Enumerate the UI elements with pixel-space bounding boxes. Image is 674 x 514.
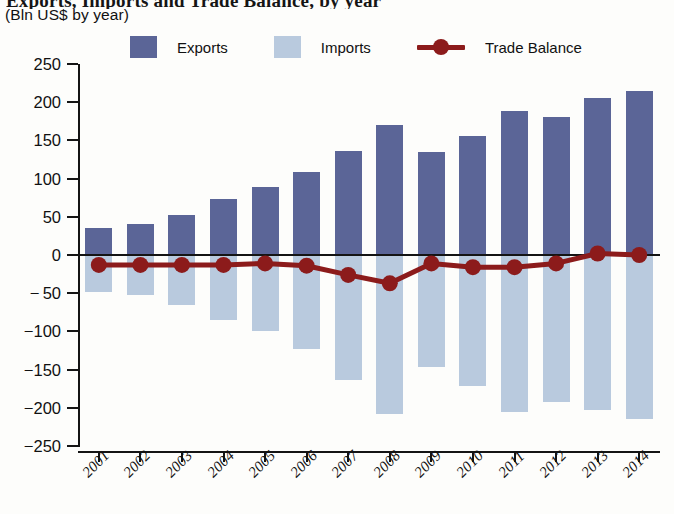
bar-import[interactable] <box>127 255 154 295</box>
bar-import[interactable] <box>376 255 403 414</box>
y-axis-tick <box>67 254 78 256</box>
y-axis-tick <box>67 216 78 218</box>
y-axis-tick-label: 200 <box>33 93 61 112</box>
bar-export[interactable] <box>293 172 320 255</box>
bar-import[interactable] <box>543 255 570 402</box>
chart-legend: Exports Imports Trade Balance <box>130 36 582 58</box>
bar-import[interactable] <box>584 255 611 410</box>
y-axis-labels: 250200150100500− 50−100−150−200−250 <box>0 64 67 447</box>
y-axis-tick <box>67 101 78 103</box>
legend-label-exports: Exports <box>177 39 228 56</box>
bar-export[interactable] <box>543 117 570 255</box>
y-axis-tick-label: 50 <box>43 207 61 226</box>
y-axis-tick-label: 0 <box>52 246 61 265</box>
x-axis-spine <box>78 451 660 453</box>
bar-export[interactable] <box>418 152 445 255</box>
y-axis-tick <box>67 407 78 409</box>
bar-import[interactable] <box>626 255 653 419</box>
legend-swatch-exports <box>130 36 157 58</box>
y-axis-tick-label: − 50 <box>30 284 61 303</box>
bar-export[interactable] <box>459 136 486 255</box>
bar-import[interactable] <box>459 255 486 386</box>
bar-export[interactable] <box>626 91 653 255</box>
bar-export[interactable] <box>168 215 195 255</box>
bar-export[interactable] <box>501 111 528 255</box>
bar-export[interactable] <box>127 224 154 255</box>
legend-item-exports[interactable]: Exports <box>130 36 228 58</box>
bar-import[interactable] <box>210 255 237 320</box>
y-axis-tick-label: −150 <box>24 360 61 379</box>
y-axis-tick <box>67 369 78 371</box>
bar-import[interactable] <box>168 255 195 305</box>
bar-import[interactable] <box>335 255 362 380</box>
y-axis-tick-label: −100 <box>24 322 61 341</box>
legend-swatch-imports <box>274 36 301 58</box>
bar-export[interactable] <box>376 125 403 255</box>
bar-export[interactable] <box>210 199 237 255</box>
bar-export[interactable] <box>335 151 362 255</box>
y-axis-tick <box>67 292 78 294</box>
y-axis-tick <box>67 445 78 447</box>
bar-import[interactable] <box>293 255 320 349</box>
y-axis-tick <box>67 139 78 141</box>
legend-item-imports[interactable]: Imports <box>274 36 371 58</box>
plot-area: 2001: -132002: -132003: -132004: -132005… <box>78 64 660 446</box>
y-axis-tick <box>67 330 78 332</box>
zero-baseline <box>78 254 660 256</box>
y-axis-tick-label: 250 <box>33 55 61 74</box>
y-axis-tick-label: −250 <box>24 437 61 456</box>
bar-import[interactable] <box>418 255 445 367</box>
y-axis-tick-label: 150 <box>33 131 61 150</box>
bar-export[interactable] <box>252 187 279 255</box>
legend-label-trade-balance: Trade Balance <box>485 39 582 56</box>
bar-import[interactable] <box>252 255 279 331</box>
y-axis-tick-label: −200 <box>24 398 61 417</box>
bar-import[interactable] <box>501 255 528 412</box>
legend-label-imports: Imports <box>321 39 371 56</box>
bar-export[interactable] <box>85 228 112 255</box>
y-axis-tick-label: 100 <box>33 169 61 188</box>
legend-item-trade-balance[interactable]: Trade Balance <box>417 36 582 58</box>
y-axis-tick <box>67 178 78 180</box>
bar-export[interactable] <box>584 98 611 255</box>
bar-import[interactable] <box>85 255 112 292</box>
y-axis-tick <box>67 63 78 65</box>
chart-subtitle: (Bln US$ by year) <box>5 6 129 24</box>
legend-line-marker-trade-balance <box>417 36 465 58</box>
chart-root: Exports, Imports and Trade Balance, by y… <box>0 0 674 514</box>
